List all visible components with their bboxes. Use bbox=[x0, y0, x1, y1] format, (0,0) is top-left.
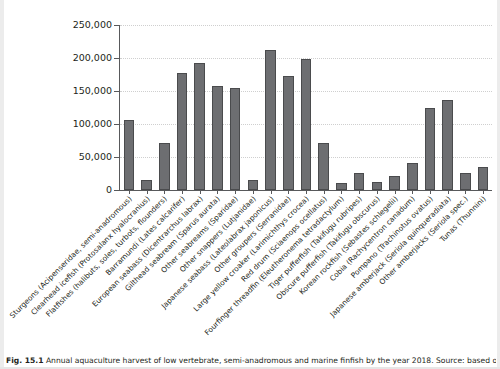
x-axis-tick bbox=[465, 190, 466, 194]
y-axis-tick-labels: 250,000200,000150,000100,00050,0000 bbox=[58, 0, 112, 369]
x-axis-category-label: Gilthead seabream (Sparus aurata) bbox=[124, 195, 222, 293]
x-axis-category-label: Japanese seabass (Lateolabrax japonicus) bbox=[160, 195, 275, 310]
x-axis-category-label: Large yellow croaker (Larimichthys croce… bbox=[192, 195, 310, 313]
x-axis-tick bbox=[147, 190, 148, 194]
x-axis-tick bbox=[341, 190, 342, 194]
x-axis-category-label: Fourfinger threadfin (Eleutheronema tetr… bbox=[204, 195, 346, 337]
x-axis-tick bbox=[395, 190, 396, 194]
bar bbox=[478, 167, 489, 190]
bar bbox=[425, 108, 436, 190]
bar bbox=[230, 88, 241, 190]
bar bbox=[407, 163, 418, 190]
x-axis-tick bbox=[288, 190, 289, 194]
gridline bbox=[120, 25, 492, 26]
x-axis-category-label: Other seabreams (Sparidae) bbox=[160, 195, 240, 275]
figure-caption: Fig. 15.1 Annual aquaculture harvest of … bbox=[6, 356, 496, 366]
bar bbox=[283, 76, 294, 190]
bar bbox=[318, 143, 329, 190]
x-axis-tick bbox=[217, 190, 218, 194]
x-axis-tick bbox=[200, 190, 201, 194]
page-edge-left bbox=[0, 0, 4, 369]
x-axis-tick bbox=[164, 190, 165, 194]
x-axis-category-label: Other groupers (Serranidae) bbox=[213, 195, 293, 275]
x-axis-category-label: Obscure pufferfish (Takifugu obscurus) bbox=[275, 195, 382, 302]
y-axis-tick-label: 250,000 bbox=[73, 20, 112, 30]
bar bbox=[389, 176, 400, 190]
bar bbox=[301, 59, 312, 190]
bar bbox=[141, 180, 152, 190]
bar bbox=[124, 120, 135, 190]
y-axis-tick-label: 0 bbox=[106, 185, 112, 195]
x-axis-tick bbox=[377, 190, 378, 194]
y-axis-tick-label: 50,000 bbox=[79, 152, 112, 162]
bar bbox=[177, 73, 188, 190]
x-axis-category-label: Japanese amberjack (Seriola quinqueradia… bbox=[329, 195, 453, 319]
bar bbox=[372, 182, 383, 190]
y-axis-tick-label: 200,000 bbox=[73, 53, 112, 63]
y-axis-tick-label: 150,000 bbox=[73, 86, 112, 96]
y-axis-tick bbox=[114, 25, 119, 26]
x-axis-tick bbox=[271, 190, 272, 194]
plot-area bbox=[120, 25, 492, 190]
x-axis-tick bbox=[253, 190, 254, 194]
bar bbox=[442, 100, 453, 190]
x-axis-tick bbox=[483, 190, 484, 194]
y-axis-tick bbox=[114, 124, 119, 125]
x-axis-tick bbox=[235, 190, 236, 194]
x-axis-category-label: Other amberjacks (Seriola spec.) bbox=[378, 195, 470, 287]
caption-text: Annual aquaculture harvest of low verteb… bbox=[46, 356, 496, 365]
x-axis-tick bbox=[412, 190, 413, 194]
x-axis-category-label: Barramundi (Lates calcarifer) bbox=[104, 195, 186, 277]
x-axis-category-label: Korean rockfish (Sebastes schlegelii) bbox=[298, 195, 400, 297]
bar bbox=[354, 173, 365, 190]
x-axis-tick bbox=[182, 190, 183, 194]
figure-container: Aquaculture harvest [tons] 250,000200,00… bbox=[0, 0, 500, 369]
bar bbox=[159, 143, 170, 190]
x-axis-tick bbox=[430, 190, 431, 194]
x-axis-category-label: Pompano (Trachinotus ovatus) bbox=[350, 195, 435, 280]
x-axis-tick bbox=[448, 190, 449, 194]
caption-label: Fig. 15.1 bbox=[6, 356, 44, 365]
bar bbox=[212, 86, 223, 190]
x-axis-tick bbox=[324, 190, 325, 194]
bar bbox=[194, 63, 205, 190]
x-axis-tick bbox=[129, 190, 130, 194]
y-axis-tick bbox=[114, 91, 119, 92]
y-axis-tick-label: 100,000 bbox=[73, 119, 112, 129]
bar bbox=[265, 50, 276, 190]
bar bbox=[248, 180, 259, 190]
x-axis-category-label: Red drum (Sciaenops ocellatus) bbox=[240, 195, 329, 284]
x-axis-category-label: Tiger pufferfish (Takifugu rubripes) bbox=[268, 195, 364, 291]
y-axis-tick bbox=[114, 157, 119, 158]
bar bbox=[336, 183, 347, 190]
x-axis-category-label: Tunas (Thunnini) bbox=[439, 195, 488, 244]
x-axis-tick bbox=[306, 190, 307, 194]
y-axis-tick bbox=[114, 58, 119, 59]
x-axis-category-label: Other snappers (Lutjanidae) bbox=[178, 195, 257, 274]
x-axis-category-label: Cobia (Rachycentron canadum) bbox=[329, 195, 417, 283]
bar bbox=[460, 173, 471, 190]
x-axis-tick bbox=[359, 190, 360, 194]
y-axis-tick bbox=[114, 190, 119, 191]
